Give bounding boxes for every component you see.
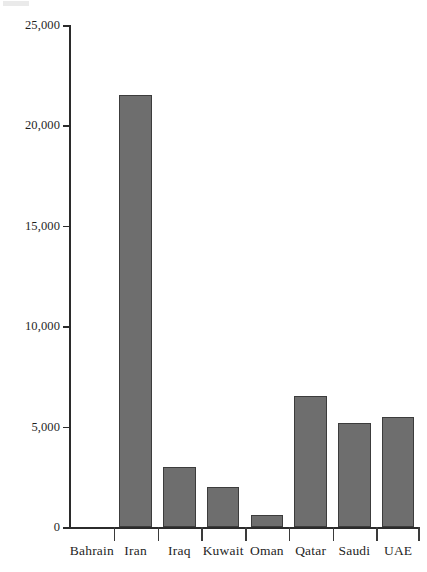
x-tick-mark bbox=[114, 527, 116, 541]
y-tick-label: 0 bbox=[54, 520, 60, 535]
x-axis-label-saudi: Saudi bbox=[338, 543, 370, 559]
bar bbox=[119, 95, 151, 527]
x-axis-label-qatar: Qatar bbox=[295, 543, 326, 559]
x-tick-mark bbox=[201, 527, 203, 541]
bar-chart-figure: 05,00010,00015,00020,00025,000 BahrainIr… bbox=[0, 0, 427, 572]
x-axis-label-iran: Iran bbox=[124, 543, 147, 559]
bar bbox=[251, 515, 283, 527]
y-tick-label: 10,000 bbox=[25, 319, 60, 334]
x-axis-label-iraq: Iraq bbox=[168, 543, 191, 559]
y-tick-label: 5,000 bbox=[31, 419, 60, 434]
x-tick-mark bbox=[333, 527, 335, 541]
bar bbox=[338, 423, 370, 527]
x-tick-mark bbox=[376, 527, 378, 541]
x-axis-label-uae: UAE bbox=[384, 543, 412, 559]
x-axis-label-oman: Oman bbox=[250, 543, 284, 559]
y-tick-mark bbox=[63, 427, 70, 429]
y-tick-mark bbox=[63, 226, 70, 228]
bar bbox=[207, 487, 239, 527]
bar bbox=[163, 467, 195, 527]
y-tick-mark bbox=[63, 527, 70, 529]
x-axis-label-kuwait: Kuwait bbox=[203, 543, 244, 559]
y-tick-mark bbox=[63, 326, 70, 328]
scan-artifact bbox=[3, 1, 29, 6]
x-axis-labels: BahrainIranIraqKuwaitOmanQatarSaudiUAE bbox=[70, 543, 420, 569]
y-tick-mark bbox=[63, 125, 70, 127]
y-tick-label: 15,000 bbox=[25, 218, 60, 233]
x-tick-mark bbox=[245, 527, 247, 541]
x-tick-mark bbox=[158, 527, 160, 541]
bar bbox=[382, 417, 414, 527]
x-tick-mark bbox=[418, 527, 420, 541]
y-tick-label: 25,000 bbox=[25, 18, 60, 33]
y-tick-label: 20,000 bbox=[25, 118, 60, 133]
x-axis-label-bahrain: Bahrain bbox=[70, 543, 114, 559]
x-tick-mark bbox=[289, 527, 291, 541]
plot-area: 05,00010,00015,00020,00025,000 bbox=[70, 25, 420, 527]
bar bbox=[294, 396, 326, 527]
y-tick-mark bbox=[63, 25, 70, 27]
